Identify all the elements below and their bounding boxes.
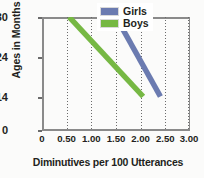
y-tick-label-24: 24 (0, 51, 8, 63)
x-tick-label-0.50: 0.50 (57, 133, 76, 144)
legend-swatch-boys (100, 19, 119, 28)
y-tick-label-14: 14 (0, 91, 8, 103)
x-tick-label-0: 0 (39, 133, 44, 144)
legend-item-boys[interactable]: Boys (100, 18, 149, 28)
legend-label-girls: Girls (123, 6, 147, 16)
legend-item-girls[interactable]: Girls (100, 6, 149, 16)
y-axis-title: Ages in Months (9, 0, 23, 88)
x-tick-label-1.50: 1.50 (107, 133, 126, 144)
y-tick-label-0: 0 (2, 124, 8, 136)
chart-legend: Girls Boys (97, 3, 153, 31)
data-series-group (42, 17, 190, 130)
y-tick-label-30: 30 (0, 11, 8, 23)
chart-figure: Ages in Months 30 24 14 0 0 0.50 1.00 1.… (0, 0, 204, 178)
plot-area (42, 17, 190, 130)
x-tick-label-3.00: 3.00 (180, 133, 199, 144)
legend-swatch-girls (100, 7, 119, 16)
x-tick-label-2.00: 2.00 (131, 133, 150, 144)
legend-label-boys: Boys (123, 18, 149, 28)
x-tick-label-1.00: 1.00 (82, 133, 101, 144)
x-tick-label-2.50: 2.50 (156, 133, 175, 144)
x-axis-title: Diminutives per 100 Utterances (18, 156, 198, 168)
